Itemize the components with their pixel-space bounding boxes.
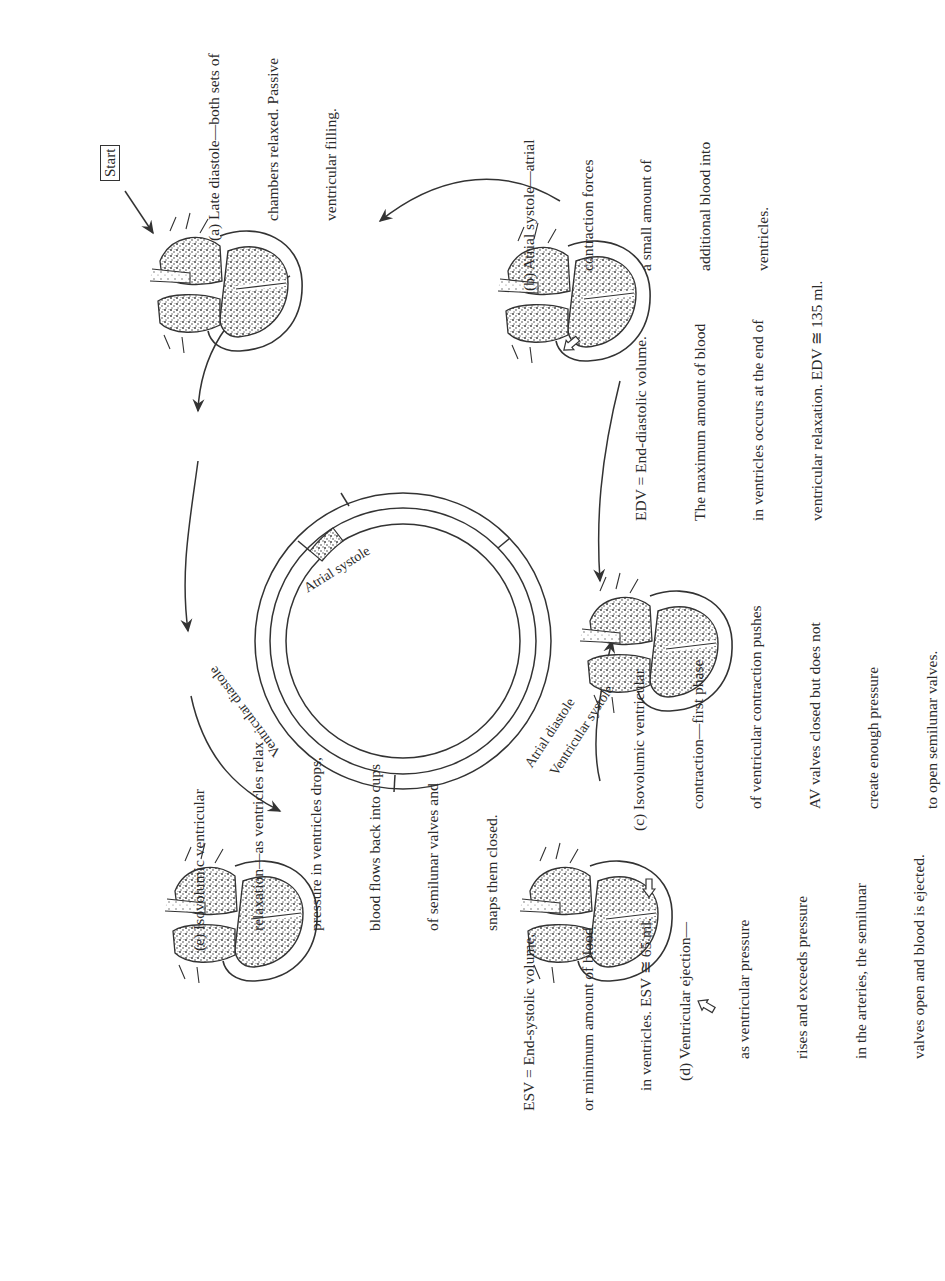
note-edv: EDV = End-diastolic volume. The maximum … [592, 281, 865, 521]
caption-stage-e: (e) Isovolumic ventricular relaxation—as… [150, 742, 540, 951]
caption-stage-c: (c) Isovolumic ventricular contraction—f… [590, 605, 945, 831]
start-arrow [125, 191, 153, 233]
start-label: Start [100, 145, 120, 181]
caption-stage-a: (a) Late diastole—both sets of chambers … [165, 53, 380, 241]
caption-stage-b: (b) Atrial systole—atrial contraction fo… [480, 139, 812, 291]
